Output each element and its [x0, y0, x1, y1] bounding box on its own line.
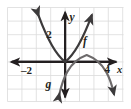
x-tick-label-4: 4	[105, 63, 111, 75]
x-tick-label-negative-2: –2	[20, 64, 33, 76]
y-tick-label-2: 2	[46, 28, 52, 40]
x-axis-label: x	[116, 64, 122, 75]
curve-label-g: g	[45, 78, 52, 91]
graph-figure: y x 2 –2 4 f g	[0, 0, 131, 109]
coordinate-plane-svg: y x 2 –2 4 f g	[0, 0, 131, 109]
y-axis-label: y	[68, 11, 76, 24]
